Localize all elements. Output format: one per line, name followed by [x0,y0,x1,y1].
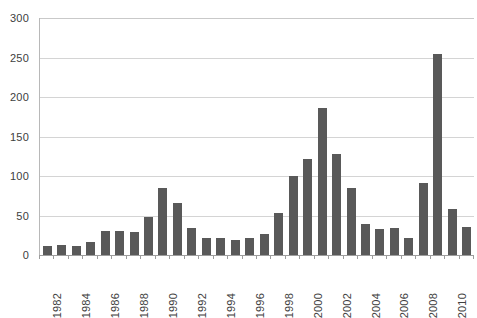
bar[interactable] [202,238,211,255]
x-tick [372,255,373,259]
x-axis-ticks [39,255,473,260]
x-tick [430,255,431,259]
bar-slot [243,18,257,255]
bar[interactable] [347,188,356,255]
x-tick-label: 2008 [427,293,439,318]
bar[interactable] [158,188,167,255]
bar[interactable] [390,228,399,255]
bar[interactable] [419,183,428,255]
bar-slot [54,18,68,255]
bar[interactable] [130,232,139,255]
bar-slot [416,18,430,255]
bar-slot [315,18,329,255]
y-axis-labels: 050100150200250300 [0,0,34,294]
x-tick-label: 1982 [51,293,63,318]
bar-slot [40,18,54,255]
x-tick [140,255,141,259]
bar-slot [228,18,242,255]
bar-slot [214,18,228,255]
x-tick [169,255,170,259]
bar-slot [286,18,300,255]
bar-slot [387,18,401,255]
bar[interactable] [101,231,110,255]
bar-slot [141,18,155,255]
bar[interactable] [187,228,196,255]
bar-slot [271,18,285,255]
x-tick [357,255,358,259]
x-tick [386,255,387,259]
bar[interactable] [361,224,370,255]
bar-slot [156,18,170,255]
y-tick-label: 200 [10,91,29,103]
bar[interactable] [404,238,413,255]
bar-slot [98,18,112,255]
x-tick [111,255,112,259]
bar-slot [344,18,358,255]
x-tick-label: 1986 [109,293,121,318]
bar[interactable] [72,246,81,255]
x-tick [97,255,98,259]
bar-slot [127,18,141,255]
bar-slot [373,18,387,255]
bar[interactable] [332,154,341,255]
bar-slot [185,18,199,255]
bar-slot [170,18,184,255]
bar[interactable] [303,159,312,255]
y-tick-label: 150 [10,131,29,143]
bar[interactable] [274,213,283,255]
bar[interactable] [375,229,384,255]
bar[interactable] [448,209,457,255]
x-tick-label: 1996 [254,293,266,318]
x-tick-label: 2002 [341,293,353,318]
bar[interactable] [57,245,66,255]
bar-slot [402,18,416,255]
x-tick [285,255,286,259]
x-tick [256,255,257,259]
x-tick [213,255,214,259]
x-tick-label: 1994 [225,293,237,318]
bar-slot [431,18,445,255]
x-tick-label: 1984 [80,293,92,318]
bar-slot [358,18,372,255]
x-tick-label: 2004 [370,293,382,318]
y-tick-label: 0 [23,249,29,261]
y-tick-label: 50 [16,210,29,222]
x-tick [155,255,156,259]
x-tick [270,255,271,259]
bar[interactable] [245,238,254,255]
bar[interactable] [43,246,52,255]
x-tick [82,255,83,259]
bar[interactable] [216,238,225,255]
bar[interactable] [144,217,153,255]
bar[interactable] [86,242,95,255]
x-tick-label: 1992 [196,293,208,318]
x-tick [242,255,243,259]
x-tick-label: 1988 [138,293,150,318]
bar-slot [460,18,474,255]
bar-slot [445,18,459,255]
bar[interactable] [173,203,182,255]
y-tick-label: 250 [10,52,29,64]
bar[interactable] [115,231,124,255]
bar-slot [199,18,213,255]
bar[interactable] [318,108,327,255]
bar[interactable] [433,54,442,255]
bar-slot [257,18,271,255]
bar[interactable] [289,176,298,255]
x-tick [415,255,416,259]
x-tick [328,255,329,259]
bar[interactable] [462,227,471,255]
x-tick [299,255,300,259]
x-tick-label: 1990 [167,293,179,318]
bar-slot [83,18,97,255]
x-tick [39,255,40,259]
bar-slot [329,18,343,255]
x-tick [126,255,127,259]
x-tick [343,255,344,259]
x-tick [68,255,69,259]
x-tick [459,255,460,259]
bar[interactable] [260,234,269,255]
bar-slot [112,18,126,255]
bar[interactable] [231,240,240,255]
